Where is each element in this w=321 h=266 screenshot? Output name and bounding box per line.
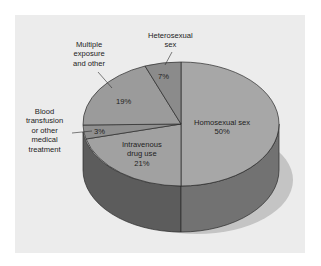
- label-intravenous: Intravenous drug use 21%: [122, 140, 162, 168]
- pct-multiple-exposure: 19%: [116, 97, 131, 106]
- label-heterosexual: Heterosexual sex: [148, 31, 193, 50]
- label-homosexual: Homosexual sex 50%: [194, 118, 250, 137]
- pct-heterosexual: 7%: [158, 72, 169, 81]
- label-multiple-exposure: Multiple exposure and other: [73, 40, 105, 68]
- pct-blood-transfusion: 3%: [94, 127, 105, 136]
- label-blood-transfusion: Blood transfusion or other medical treat…: [26, 107, 63, 154]
